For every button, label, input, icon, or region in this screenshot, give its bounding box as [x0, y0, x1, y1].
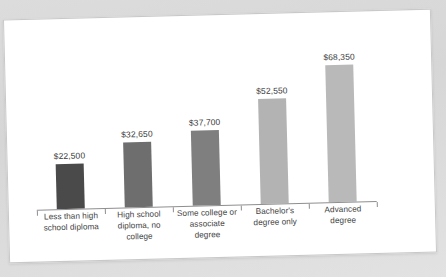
bar-rect[interactable] — [56, 163, 85, 209]
x-axis-tick — [309, 204, 310, 209]
bar-value-label: $32,650 — [121, 128, 153, 139]
bar-rect[interactable] — [123, 141, 153, 207]
bar-value-label: $22,500 — [54, 150, 86, 161]
bar-value-label: $52,550 — [256, 85, 288, 96]
x-axis-tick — [37, 211, 38, 216]
chart-card: $22,500$32,650$37,700$52,550$68,350 Less… — [3, 9, 437, 264]
x-axis-tick — [105, 209, 106, 214]
bar-value-label: $68,350 — [323, 52, 355, 63]
bar-rect[interactable] — [325, 65, 356, 202]
bar-rect[interactable] — [258, 98, 289, 204]
bar-rect[interactable] — [191, 130, 221, 206]
category-label: Advanceddegree — [307, 203, 380, 227]
category-label: Less than highschool diploma — [35, 210, 108, 234]
screenshot-scene: $22,500$32,650$37,700$52,550$68,350 Less… — [0, 0, 446, 277]
x-axis-tick — [241, 205, 242, 210]
x-axis-tick — [377, 202, 378, 207]
bar-chart: $22,500$32,650$37,700$52,550$68,350 Less… — [4, 10, 438, 265]
category-label-line: degree only — [239, 216, 311, 229]
category-label: High schooldiploma, nocollege — [103, 208, 176, 243]
category-label-line: college — [103, 231, 175, 244]
category-label-line: Some college or — [171, 206, 243, 219]
bar-group: $68,350 — [307, 51, 375, 202]
category-label-line: degree — [171, 229, 243, 242]
category-label-line: degree — [307, 214, 379, 227]
bar-group: $22,500 — [37, 150, 102, 210]
bar-value-label: $37,700 — [189, 117, 221, 128]
category-label: Some college orassociatedegree — [171, 206, 244, 241]
bar-group: $32,650 — [105, 128, 171, 208]
bar-group: $52,550 — [240, 85, 307, 205]
category-label: Bachelor'sdegree only — [239, 205, 312, 229]
bar-group: $37,700 — [173, 116, 239, 206]
x-axis-tick — [173, 207, 174, 212]
category-label-line: school diploma — [35, 221, 107, 234]
